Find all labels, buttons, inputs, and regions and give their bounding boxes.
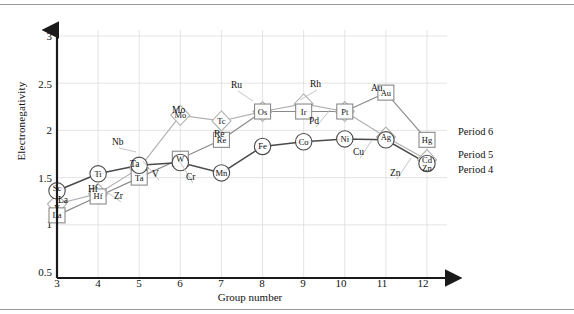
callout-Ru: Ru [231,81,242,91]
callout-Cu: Cu [353,148,364,158]
figure-container: Electronegativity Group number 0.5 1 1.5… [0,0,574,314]
callout-Ta: Ta [130,160,139,170]
point-label-W: W [176,154,184,163]
point-label-Re: Re [217,136,226,145]
data-series-layer [48,85,437,223]
point-label-Ta: Ta [135,173,143,182]
point-label-Tc: Tc [217,117,225,126]
point-label-Ni: Ni [341,135,350,144]
point-label-Os: Os [258,107,267,116]
point-label-Co: Co [299,137,309,146]
point-label-Fe: Fe [258,142,267,151]
point-label-Au: Au [381,88,391,97]
callout-Zn: Zn [390,169,401,179]
callout-Cr: Cr [186,173,196,183]
point-label-Mn: Mn [216,169,228,178]
point-label-Hg: Hg [422,136,432,145]
point-label-Ti: Ti [94,170,101,179]
legend-period-6: Period 6 [458,126,493,137]
point-label-Pt: Pt [341,107,348,116]
callout-Pd: Pd [309,117,319,127]
legend-period-5: Period 5 [458,149,493,160]
point-label-Hf: Hf [94,192,103,201]
point-label-Zn-hidden: Zn [422,164,431,173]
callout-Zr: Zr [114,192,123,202]
point-label-Sc: Sc [53,184,62,193]
point-label-La: La [53,211,62,220]
point-label-Ir: Ir [301,107,307,116]
point-label-Mo: Mo [174,111,186,120]
point-label-Ag: Ag [381,133,391,142]
legend-period-4: Period 4 [458,164,493,175]
callout-V: V [152,170,159,180]
callout-Nb: Nb [112,138,124,148]
callout-Rh: Rh [310,80,321,90]
